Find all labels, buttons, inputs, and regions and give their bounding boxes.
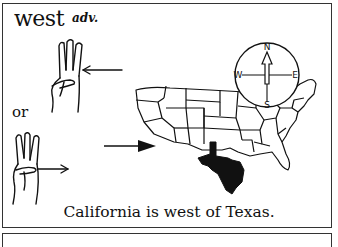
headword: west <box>14 6 64 31</box>
compass-east-label: E <box>292 70 298 80</box>
compass-west-label: W <box>234 70 243 80</box>
hand-sign-icon-variant-2 <box>10 132 100 212</box>
hand-sign-icon-variant-1 <box>40 36 130 116</box>
compass-south-label: S <box>264 100 270 110</box>
compass-rose-icon: N S W E <box>232 40 302 110</box>
next-entry-frame <box>2 233 332 247</box>
compass-north-label: N <box>264 42 271 52</box>
alternative-label: or <box>12 103 28 121</box>
example-sentence: California is west of Texas. <box>0 203 338 221</box>
part-of-speech: adv. <box>72 11 98 25</box>
arrow-to-california-icon <box>100 138 160 154</box>
